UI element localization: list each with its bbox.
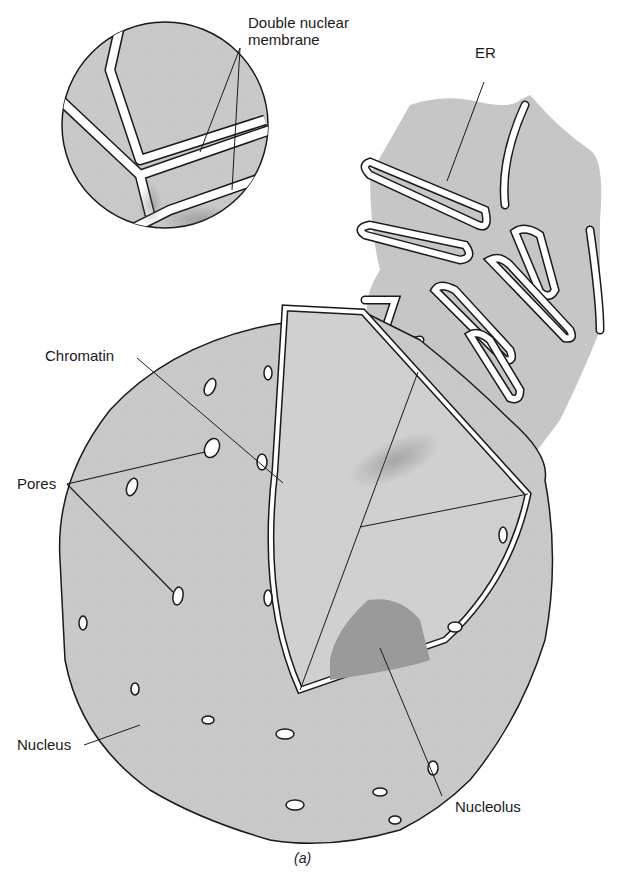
figure-caption: (a) [294,850,311,867]
label-double-nuclear-membrane: Double nuclear membrane [248,14,349,48]
nucleus-diagram [0,0,625,875]
label-chromatin: Chromatin [45,347,114,364]
label-line-2: membrane [248,31,349,48]
label-line-1: Double nuclear [248,14,349,31]
label-er: ER [475,44,496,61]
label-nucleus: Nucleus [17,736,71,753]
membrane-inset [55,22,270,250]
label-nucleolus: Nucleolus [455,798,521,815]
label-pores: Pores [17,475,56,492]
